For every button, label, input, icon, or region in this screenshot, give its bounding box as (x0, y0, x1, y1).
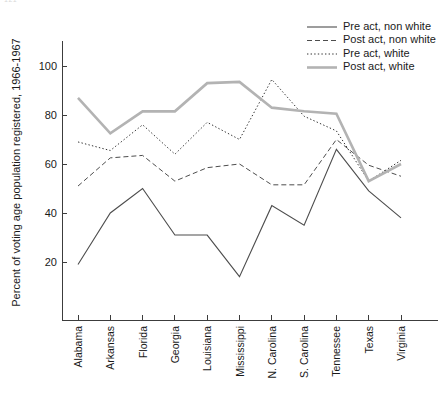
chart-canvas: 20406080100AlabamaArkansasFloridaGeorgia… (0, 0, 441, 397)
x-tick-label: Texas (363, 326, 375, 353)
chart-figure: 121 20406080100AlabamaArkansasFloridaGeo… (0, 0, 441, 397)
x-tick-label: Alabama (72, 326, 84, 368)
legend-label-0: Pre act, non white (343, 20, 431, 32)
y-tick-label: 60 (45, 158, 57, 170)
x-tick-label: Florida (137, 326, 149, 358)
x-tick-label: Georgia (169, 326, 181, 364)
legend-label-1: Post act, non white (343, 33, 436, 45)
axis-labels: Percent of voting age population registe… (10, 38, 22, 306)
x-tick-label: Louisiana (201, 326, 213, 371)
y-axis-title: Percent of voting age population registe… (10, 38, 22, 306)
y-tick-label: 20 (45, 256, 57, 268)
x-tick-label: Arkansas (104, 326, 116, 370)
y-tick-label: 100 (39, 60, 57, 72)
legend-label-2: Pre act, white (343, 47, 410, 59)
series-line-0 (78, 149, 401, 276)
series-line-2 (78, 79, 401, 181)
x-tick-label: S. Carolina (298, 326, 310, 378)
x-tick-label: Tennessee (330, 326, 342, 377)
data-series (78, 79, 401, 276)
y-tick-label: 80 (45, 109, 57, 121)
axes: 20406080100AlabamaArkansasFloridaGeorgia… (39, 41, 438, 379)
x-tick-label: N. Carolina (266, 326, 278, 379)
chart-legend: Pre act, non whitePost act, non whitePre… (307, 20, 436, 73)
y-tick-label: 40 (45, 207, 57, 219)
legend-label-3: Post act, white (343, 60, 415, 72)
series-line-3 (78, 82, 401, 181)
x-tick-label: Mississippi (234, 326, 246, 377)
x-tick-label: Virginia (395, 326, 407, 361)
